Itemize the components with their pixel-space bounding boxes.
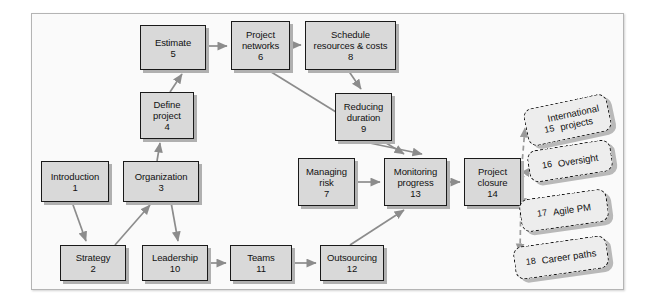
chapter-node-number: 2 <box>90 263 95 274</box>
chapter-node-14[interactable]: Project closure14 <box>464 158 521 206</box>
chapter-node-title: Managing risk <box>306 166 347 188</box>
chapter-node-title: Teams <box>247 252 274 263</box>
chapter-node-number: 8 <box>348 51 353 62</box>
chapter-node-title: Leadership <box>152 252 198 263</box>
future-topic-title: Oversight <box>557 151 599 168</box>
future-topic-number: 16 <box>541 158 553 170</box>
chapter-node-title: Strategy <box>76 252 111 263</box>
chapter-node-number: 4 <box>164 121 169 132</box>
chapter-node-title: Organization <box>135 171 188 182</box>
chapter-node-13[interactable]: Monitoring progress13 <box>384 158 447 206</box>
chapter-node-title: Project networks <box>242 29 279 51</box>
chapter-node-title: Reducing duration <box>344 101 383 123</box>
diagram-canvas: Introduction1Strategy2Organization3Defin… <box>0 0 653 306</box>
chapter-node-title: Introduction <box>51 171 99 182</box>
chapter-node-title: Outsourcing <box>327 252 377 263</box>
chapter-node-5[interactable]: Estimate5 <box>140 25 206 70</box>
chapter-node-number: 10 <box>170 263 180 274</box>
chapter-node-title: Schedule resources & costs <box>314 29 388 51</box>
chapter-node-number: 3 <box>158 182 163 193</box>
chapter-node-number: 12 <box>347 263 357 274</box>
chapter-node-number: 11 <box>256 263 266 274</box>
future-topic-number: 15 <box>543 123 555 136</box>
chapter-node-number: 14 <box>487 188 497 199</box>
chapter-node-4[interactable]: Define project4 <box>140 92 194 139</box>
chapter-node-6[interactable]: Project networks6 <box>231 21 290 70</box>
chapter-node-3[interactable]: Organization3 <box>123 161 199 202</box>
future-topic-number: 18 <box>525 256 536 268</box>
chapter-node-number: 7 <box>324 188 329 199</box>
chapter-node-title: Estimate <box>155 37 191 48</box>
chapter-node-title: Project closure <box>478 166 508 188</box>
chapter-node-9[interactable]: Reducing duration9 <box>335 93 392 141</box>
chapter-node-11[interactable]: Teams11 <box>230 245 292 281</box>
chapter-node-title: Monitoring progress <box>394 166 437 188</box>
chapter-node-12[interactable]: Outsourcing12 <box>320 245 384 281</box>
chapter-node-title: Define project <box>153 99 181 121</box>
future-topic-title: Agile PM <box>552 201 591 217</box>
chapter-node-number: 5 <box>170 48 175 59</box>
chapter-node-7[interactable]: Managing risk7 <box>298 158 355 206</box>
chapter-node-8[interactable]: Schedule resources & costs8 <box>305 21 396 70</box>
chapter-node-10[interactable]: Leadership10 <box>142 245 208 281</box>
future-topic-number: 17 <box>536 207 547 219</box>
chapter-node-number: 1 <box>72 182 77 193</box>
chapter-node-1[interactable]: Introduction1 <box>41 161 109 202</box>
chapter-node-number: 9 <box>361 123 366 134</box>
chapter-node-number: 6 <box>258 51 263 62</box>
chapter-node-2[interactable]: Strategy2 <box>60 245 126 281</box>
future-topic-title: Career paths <box>541 247 597 266</box>
chapter-node-number: 13 <box>410 188 420 199</box>
